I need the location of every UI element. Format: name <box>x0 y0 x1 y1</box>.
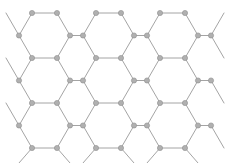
lattice-atom <box>54 100 59 105</box>
lattice-atom <box>144 123 149 128</box>
figure-background <box>0 0 239 163</box>
lattice-atom <box>182 145 187 150</box>
lattice-atom <box>29 55 34 60</box>
lattice-atom <box>195 123 200 128</box>
lattice-atom <box>157 55 162 60</box>
lattice-atom <box>80 123 85 128</box>
lattice-atom <box>29 100 34 105</box>
lattice-atom <box>131 123 136 128</box>
lattice-atom <box>208 33 213 38</box>
lattice-atom <box>157 10 162 15</box>
lattice-atom <box>80 78 85 83</box>
lattice-atom <box>182 55 187 60</box>
lattice-atom <box>157 100 162 105</box>
lattice-atom <box>208 78 213 83</box>
lattice-atom <box>67 78 72 83</box>
lattice-atom <box>157 145 162 150</box>
lattice-atom <box>16 123 21 128</box>
lattice-atom <box>118 55 123 60</box>
lattice-atom <box>54 10 59 15</box>
lattice-atom <box>208 123 213 128</box>
honeycomb-lattice-figure <box>0 0 239 163</box>
lattice-atom <box>195 78 200 83</box>
lattice-canvas <box>0 0 239 163</box>
lattice-atom <box>93 145 98 150</box>
lattice-atom <box>93 55 98 60</box>
lattice-atom <box>80 33 85 38</box>
lattice-atom <box>54 55 59 60</box>
lattice-atom <box>67 33 72 38</box>
lattice-atom <box>118 100 123 105</box>
lattice-atom <box>93 10 98 15</box>
lattice-atom <box>93 100 98 105</box>
lattice-atom <box>118 10 123 15</box>
lattice-atom <box>131 33 136 38</box>
lattice-atom <box>29 145 34 150</box>
lattice-atom <box>144 33 149 38</box>
lattice-atom <box>118 145 123 150</box>
lattice-atom <box>16 78 21 83</box>
lattice-atom <box>54 145 59 150</box>
lattice-atom <box>182 10 187 15</box>
lattice-atom <box>16 33 21 38</box>
lattice-atom <box>131 78 136 83</box>
lattice-atom <box>182 100 187 105</box>
lattice-atom <box>29 10 34 15</box>
lattice-atom <box>67 123 72 128</box>
lattice-atom <box>144 78 149 83</box>
lattice-atom <box>195 33 200 38</box>
